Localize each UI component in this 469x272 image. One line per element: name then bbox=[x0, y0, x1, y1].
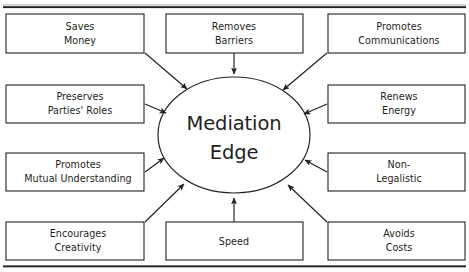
node-label-speed: Speed bbox=[219, 236, 249, 247]
node-label-promotes-mutual-understanding-line1: Promotes bbox=[55, 159, 101, 170]
node-box-promotes-communications bbox=[328, 14, 465, 53]
connector-promotes-mutual-understanding bbox=[145, 158, 164, 172]
connector-preserves-parties-roles bbox=[145, 104, 166, 113]
node-label-promotes-communications-line2: Communications bbox=[358, 35, 439, 46]
node-label-non-legalistic-line1: Non- bbox=[388, 159, 411, 170]
node-label-saves-money-line2: Money bbox=[64, 35, 96, 46]
hub-label-line2: Edge bbox=[210, 141, 259, 164]
connector-avoids-costs bbox=[288, 185, 327, 222]
top-rule bbox=[3, 6, 466, 8]
node-box-removes-barriers bbox=[166, 14, 303, 53]
node-label-renews-energy-line2: Energy bbox=[382, 105, 416, 116]
mediation-edge-figure: Saves Money Removes Barriers Promotes Co… bbox=[0, 0, 469, 272]
hub-ellipse bbox=[158, 77, 310, 193]
connector-renews-energy bbox=[304, 104, 327, 114]
connector-saves-money bbox=[145, 53, 187, 89]
hub-label-line1: Mediation bbox=[186, 112, 281, 135]
node-label-encourages-creativity-line1: Encourages bbox=[50, 228, 107, 239]
node-label-promotes-communications-line1: Promotes bbox=[376, 21, 422, 32]
node-label-renews-energy-line1: Renews bbox=[380, 91, 417, 102]
node-box-saves-money bbox=[6, 14, 144, 53]
connector-encourages-creativity bbox=[145, 184, 184, 222]
node-label-preserves-parties-roles-line2: Parties' Roles bbox=[48, 105, 113, 116]
node-label-avoids-costs-line2: Costs bbox=[386, 242, 413, 253]
connector-promotes-communications bbox=[283, 53, 327, 90]
node-label-preserves-parties-roles-line1: Preserves bbox=[56, 91, 103, 102]
node-label-encourages-creativity-line2: Creativity bbox=[55, 242, 102, 253]
top-rule-hairline bbox=[3, 5, 466, 6]
node-label-saves-money-line1: Saves bbox=[66, 21, 95, 32]
node-label-avoids-costs-line1: Avoids bbox=[383, 228, 415, 239]
node-label-removes-barriers-line1: Removes bbox=[212, 21, 256, 32]
node-label-promotes-mutual-understanding-line2: Mutual Understanding bbox=[24, 173, 131, 184]
bottom-rule bbox=[3, 265, 466, 267]
node-label-non-legalistic-line2: Legalistic bbox=[376, 173, 422, 184]
node-label-removes-barriers-line2: Barriers bbox=[215, 35, 253, 46]
connector-non-legalistic bbox=[305, 160, 327, 172]
